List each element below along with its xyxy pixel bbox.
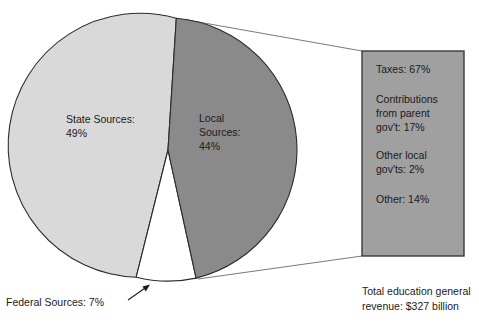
- pie-chart-figure: State Sources: 49% Local Sources: 44% Fe…: [0, 0, 479, 333]
- federal-sources-arrow-head: [143, 285, 151, 292]
- callout-item-contributions-from-parent-gov: Contributions from parent gov't: 17%: [376, 92, 438, 134]
- pie-label-federal-sources: Federal Sources: 7%: [6, 295, 104, 309]
- callout-item-other: Other: 14%: [376, 192, 429, 206]
- callout-item-taxes: Taxes: 67%: [376, 62, 430, 76]
- callout-item-other-local-govts: Other local gov'ts: 2%: [376, 148, 427, 176]
- pie-label-state-sources: State Sources: 49%: [66, 112, 135, 140]
- total-revenue-note: Total education general revenue: $327 bi…: [362, 284, 471, 314]
- pie-label-local-sources: Local Sources: 44%: [199, 111, 240, 153]
